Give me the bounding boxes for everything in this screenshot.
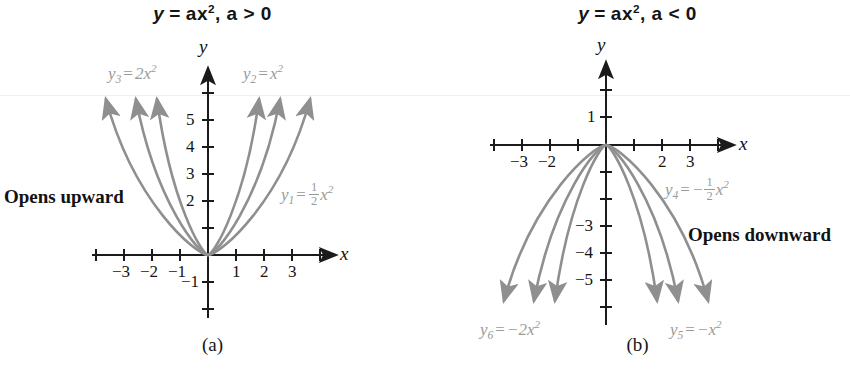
panel-b: y=ax2, a < 0 <box>425 0 850 371</box>
curve-label-y1: y1=12x2 <box>281 181 333 208</box>
y-axis-label-b: y <box>597 34 605 56</box>
y-axis-label-a: y <box>199 36 207 58</box>
curve-label-y4-coef: − <box>692 180 703 199</box>
curve-label-y6-exp: 2 <box>534 318 540 330</box>
x-axis-label-a: x <box>340 243 348 265</box>
panel-a: y=ax2, a > 0 <box>0 0 425 371</box>
curve-label-y4-name: y <box>665 180 673 199</box>
x-tick-label-a-neg2: −2 <box>140 262 158 282</box>
curve-label-y5-exp: 2 <box>716 318 722 330</box>
curve-label-y4: y4=−12x2 <box>665 176 729 203</box>
opens-upward-label: Opens upward <box>4 186 124 208</box>
y-tick-label-b-1: 1 <box>587 107 596 127</box>
x-tick-label-b-neg2: −2 <box>538 152 556 172</box>
curve-label-y2-name: y <box>243 64 251 83</box>
curve-label-y1-var: x <box>320 185 328 204</box>
curve-label-y3-var: x <box>143 64 151 83</box>
curve-label-y4-op: = <box>678 180 692 199</box>
curve-label-y1-exp: 2 <box>328 183 334 195</box>
curve-label-y1-frac-num: 1 <box>309 181 319 194</box>
curve-label-y1-name: y <box>281 185 289 204</box>
x-tick-label-b-2: 2 <box>658 152 667 172</box>
y-tick-label-b-neg3: −3 <box>575 216 593 236</box>
opens-downward-label: Opens downward <box>688 224 831 246</box>
curve-label-y1-frac-den: 2 <box>309 194 319 208</box>
y-tick-label-a-2: 2 <box>186 191 195 211</box>
x-axis-label-b: x <box>739 133 747 155</box>
curve-label-y2-exp: 2 <box>277 62 283 74</box>
y-tick-label-b-neg5: −5 <box>575 270 593 290</box>
curve-y3-left <box>157 100 208 256</box>
panel-b-caption: (b) <box>425 334 850 356</box>
figure-root: y=ax2, a > 0 <box>0 0 850 371</box>
y-tick-label-a-3: 3 <box>186 164 195 184</box>
curve-label-y1-op: = <box>294 185 308 204</box>
y-tick-label-a-4: 4 <box>186 137 195 157</box>
curve-label-y2-op: = <box>256 64 270 83</box>
curve-label-y3-op: = <box>121 64 135 83</box>
panel-a-caption: (a) <box>0 334 425 356</box>
curve-y6-right <box>606 145 657 301</box>
x-tick-label-b-neg3: −3 <box>510 152 528 172</box>
curve-label-y1-fraction: 12 <box>309 181 319 208</box>
curve-label-y4-frac-num: 1 <box>704 176 714 189</box>
curve-label-y3-exp: 2 <box>151 62 157 74</box>
curve-label-y3-name: y <box>108 64 116 83</box>
curve-label-y3: y3=2x2 <box>108 62 157 86</box>
curve-label-y4-frac-den: 2 <box>704 189 714 203</box>
y-tick-label-b-neg4: −4 <box>575 243 593 263</box>
x-tick-label-a-1: 1 <box>232 262 241 282</box>
x-tick-label-a-3: 3 <box>288 262 297 282</box>
panel-b-plot <box>425 0 850 371</box>
x-tick-label-a-neg3: −3 <box>112 262 130 282</box>
curve-label-y2: y2=x2 <box>243 62 283 86</box>
x-tick-label-b-3: 3 <box>686 152 695 172</box>
y-tick-label-a-5: 5 <box>186 110 195 130</box>
x-tick-label-a-2: 2 <box>260 262 269 282</box>
curve-label-y4-exp: 2 <box>723 178 729 190</box>
curve-y3-right <box>208 100 259 256</box>
y-tick-label-a-neg1: −1 <box>181 272 199 292</box>
curve-label-y4-fraction: 12 <box>704 176 714 203</box>
